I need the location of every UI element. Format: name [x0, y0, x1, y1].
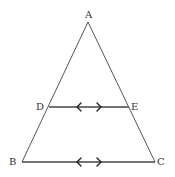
- label-a: A: [84, 9, 93, 20]
- label-e: E: [131, 101, 138, 112]
- side-ac: [88, 22, 155, 162]
- triangle-diagram: A D E B C: [0, 0, 175, 177]
- label-c: C: [157, 156, 165, 167]
- side-ab: [22, 22, 88, 162]
- label-d: D: [36, 101, 44, 112]
- label-b: B: [9, 156, 16, 167]
